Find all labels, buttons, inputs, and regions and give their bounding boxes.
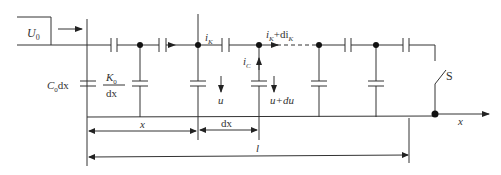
source-label: U0: [27, 26, 40, 42]
axis-label: x: [457, 115, 463, 127]
node: [256, 42, 262, 48]
dimension-x-label: x: [139, 118, 145, 130]
node: [316, 42, 322, 48]
voltage-u-plus-label: u+du: [270, 94, 294, 106]
node: [195, 42, 201, 48]
dimension-l-label: l: [256, 142, 259, 154]
switch-blade: [435, 70, 446, 84]
svg-text:K0: K0: [105, 71, 117, 86]
switch-label: S: [446, 69, 453, 83]
shunt-capacitance-label: C0dx: [47, 79, 69, 94]
node: [137, 42, 143, 48]
series-capacitance-label: K0 dx: [103, 71, 125, 99]
svg-text:dx: dx: [106, 87, 118, 99]
current-ik-plus-label: iK+diK: [266, 28, 294, 43]
current-ic-label: iC: [243, 55, 251, 70]
node: [373, 42, 379, 48]
dimension-dx-label: dx: [221, 117, 233, 129]
switch-node: [432, 111, 439, 118]
voltage-u-label: u: [218, 94, 224, 106]
current-ik-label: iK: [205, 31, 213, 46]
circuit-diagram: U0 C0dx K0 dx iK iK+diK iC u u+du S x x …: [0, 0, 501, 175]
